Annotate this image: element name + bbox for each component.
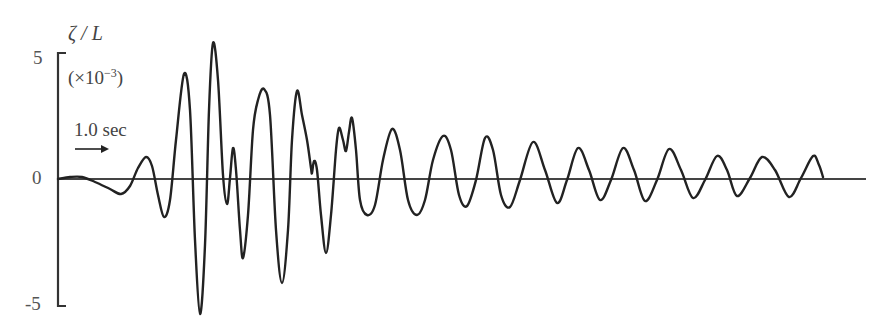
y-tick-minus-5: -5 [25, 293, 41, 315]
y-axis-label: ζ / L [68, 22, 103, 45]
time-scale-arrow-icon [75, 145, 109, 153]
y-tick-5: 5 [33, 47, 43, 69]
unit-exponent: −3 [104, 66, 117, 80]
time-scale-label: 1.0 sec [74, 119, 127, 141]
chart-canvas [0, 0, 895, 335]
y-axis-unit: (×10−3) [68, 66, 123, 89]
unit-close: ) [117, 67, 123, 88]
y-tick-0: 0 [32, 167, 42, 189]
unit-base: (×10 [68, 67, 104, 88]
